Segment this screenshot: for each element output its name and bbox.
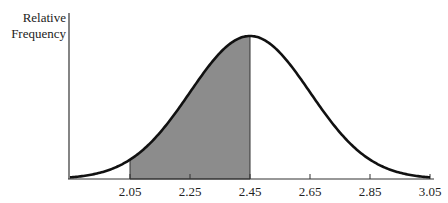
x-tick-label: 2.85 — [359, 184, 382, 199]
x-tick-label: 2.45 — [239, 184, 262, 199]
shaded-region — [130, 36, 250, 179]
x-tick-label: 3.05 — [419, 184, 442, 199]
x-tick-label: 2.25 — [179, 184, 202, 199]
x-tick-label: 2.05 — [119, 184, 142, 199]
normal-curve-chart: 2.052.252.452.652.853.05 — [0, 0, 448, 203]
shaded-area — [130, 36, 250, 179]
x-tick-label: 2.65 — [299, 184, 322, 199]
